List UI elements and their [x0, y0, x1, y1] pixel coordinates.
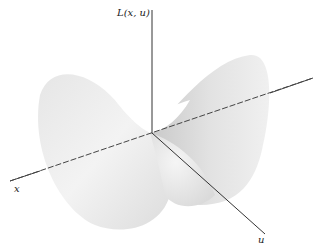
x-axis-label: x	[14, 183, 20, 194]
x-axis-right-end	[270, 78, 313, 93]
x-axis-left-end	[10, 171, 40, 181]
u-axis-label: u	[258, 234, 264, 245]
surface-left-lobe	[38, 74, 171, 229]
vertical-axis-label: L(x, u)	[116, 7, 150, 18]
saddle-diagram: L(x, u) x u	[0, 0, 321, 246]
